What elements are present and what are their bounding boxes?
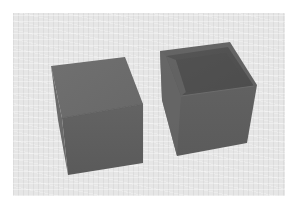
scene — [0, 0, 299, 208]
objects-layer — [0, 0, 299, 208]
solid-cube — [51, 57, 143, 175]
open-box — [160, 42, 257, 156]
